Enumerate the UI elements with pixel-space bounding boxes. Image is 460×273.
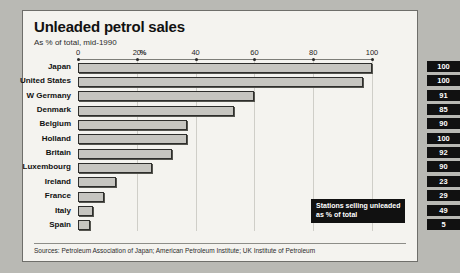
- bar: [78, 120, 187, 130]
- value-box: 85: [427, 104, 460, 115]
- bar: [78, 134, 187, 144]
- chart-panel: Unleaded petrol sales As % of total, mid…: [22, 10, 418, 262]
- bar: [78, 163, 152, 173]
- annotation-callout: Stations selling unleaded as % of total: [311, 199, 405, 223]
- chart-row: United States100: [78, 75, 372, 89]
- chart-row: Ireland23: [78, 176, 372, 190]
- category-label: Holland: [42, 134, 71, 143]
- annotation-line-1: Stations selling unleaded: [316, 202, 400, 211]
- bar: [78, 177, 116, 187]
- value-box: 5: [427, 219, 460, 230]
- chart-row: Britain92: [78, 147, 372, 161]
- source-note: Sources: Petroleum Association of Japan;…: [34, 247, 315, 254]
- x-axis-line: [78, 59, 372, 60]
- value-box: 91: [427, 90, 460, 101]
- annotation-line-2: as % of total: [316, 211, 400, 220]
- bar: [78, 106, 234, 116]
- category-label: Japan: [48, 62, 71, 71]
- bar: [78, 206, 93, 216]
- category-label: Ireland: [45, 177, 71, 186]
- axis-tick-label: 60: [250, 48, 258, 57]
- value-box: 23: [427, 176, 460, 187]
- bar: [78, 220, 90, 230]
- bar: [78, 91, 254, 101]
- category-label: Spain: [49, 220, 71, 229]
- chart-row: W Germany91: [78, 90, 372, 104]
- bar: [78, 192, 104, 202]
- chart-row: Japan100: [78, 61, 372, 75]
- chart-row: Belgium90: [78, 118, 372, 132]
- value-box: 90: [427, 118, 460, 129]
- category-label: Luxembourg: [23, 162, 71, 171]
- page-title: Unleaded petrol sales: [34, 18, 185, 35]
- category-label: Italy: [55, 206, 71, 215]
- axis-tick-label: 100: [366, 48, 379, 57]
- category-label: Britain: [46, 148, 71, 157]
- value-box: 100: [427, 75, 460, 86]
- footer-divider: [34, 243, 406, 244]
- annotation-arrow-icon: [400, 207, 405, 213]
- bar: [78, 63, 372, 73]
- bar: [78, 149, 172, 159]
- bar: [78, 77, 363, 87]
- category-label: France: [45, 191, 71, 200]
- category-label: Denmark: [37, 105, 71, 114]
- axis-tick-label: 0: [76, 48, 80, 57]
- value-box: 100: [427, 61, 460, 72]
- value-box: 100: [427, 133, 460, 144]
- category-label: United States: [20, 76, 71, 85]
- category-label: W Germany: [27, 91, 71, 100]
- chart-row: Luxembourg90: [78, 161, 372, 175]
- value-box: 92: [427, 147, 460, 158]
- value-box: 29: [427, 190, 460, 201]
- value-box: 90: [427, 161, 460, 172]
- axis-tick-label: 80: [309, 48, 317, 57]
- chart-row: Denmark85: [78, 104, 372, 118]
- axis-tick-label: 40: [191, 48, 199, 57]
- axis-unit-label: %: [140, 48, 147, 57]
- value-box: 49: [427, 205, 460, 216]
- category-label: Belgium: [39, 119, 71, 128]
- chart-subtitle: As % of total, mid-1990: [34, 38, 117, 47]
- chart-row: Holland100: [78, 133, 372, 147]
